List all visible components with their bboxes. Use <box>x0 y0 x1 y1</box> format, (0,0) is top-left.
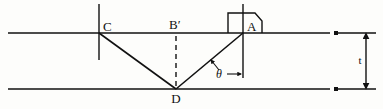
figure-root: C B′ A D θ t <box>0 0 383 109</box>
detector-box-a <box>228 13 262 33</box>
label-point-a: A <box>247 19 257 34</box>
label-point-c: C <box>103 19 112 34</box>
label-angle-theta: θ <box>216 67 222 81</box>
dim-dot-top <box>334 31 338 35</box>
ray-diagram-svg: C B′ A D θ t <box>0 0 383 109</box>
ray-segment-c-to-d <box>99 33 176 89</box>
label-point-d: D <box>171 91 180 106</box>
label-point-b-prime: B′ <box>169 17 181 32</box>
ray-arrow-c-to-d <box>122 50 140 63</box>
ray-segment-d-to-a <box>176 33 243 89</box>
label-thickness-t: t <box>358 54 361 66</box>
dim-dot-bottom <box>334 87 338 91</box>
ray-arrow-d-to-a <box>199 56 215 70</box>
